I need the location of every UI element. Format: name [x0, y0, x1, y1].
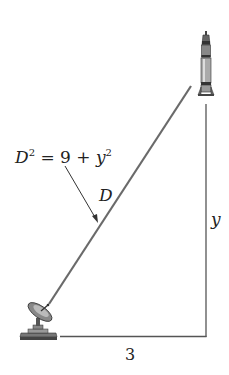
vertical-side-label: y: [210, 209, 221, 229]
distance-diagram: D2 = 9 + y2 D y 3: [0, 0, 229, 375]
hypotenuse-line: [49, 86, 191, 304]
rocket-icon: [198, 31, 214, 96]
satellite-dish-icon: [20, 299, 57, 340]
pointer-arrow: [65, 166, 98, 223]
equation-label: D2 = 9 + y2: [14, 147, 112, 167]
horizontal-side-label: 3: [125, 345, 135, 364]
hypotenuse-label: D: [98, 185, 113, 205]
